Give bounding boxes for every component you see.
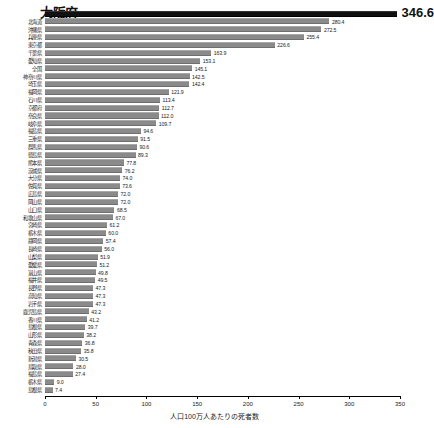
bar[interactable] [45,120,156,126]
bar-row[interactable]: 愛媛県51.2 [0,261,429,269]
bar-row[interactable]: 全国145.1 [0,65,429,73]
bar[interactable] [45,214,113,220]
bar-row[interactable]: 宮崎県61.2 [0,222,429,230]
bar[interactable] [45,340,82,346]
bar[interactable] [45,50,211,56]
bar-row[interactable]: 鳥取県28.0 [0,363,429,371]
bar-row[interactable]: 栃木県60.0 [0,229,429,237]
bar[interactable] [45,308,89,314]
bar-row[interactable]: 岩手県47.3 [0,300,429,308]
bar[interactable] [45,387,53,393]
bar-row[interactable]: 島根県7.4 [0,386,429,394]
bar-row[interactable]: 山形県38.2 [0,331,429,339]
bar[interactable] [45,199,118,205]
bar[interactable] [45,128,141,134]
bar-row[interactable]: 奈良県112.0 [0,112,429,120]
bar[interactable] [45,293,93,299]
bar[interactable] [45,11,397,17]
bar[interactable] [45,348,81,354]
bar-row[interactable]: 石川県113.4 [0,96,429,104]
bar-row[interactable]: 香川県41.2 [0,316,429,324]
bar-row[interactable]: 三重県91.5 [0,135,429,143]
bar[interactable] [45,81,189,87]
bar-row[interactable]: 静岡県57.4 [0,237,429,245]
bar[interactable] [45,97,160,103]
bar-row[interactable]: 神奈川県142.5 [0,73,429,81]
bar-row[interactable]: 岡山県72.0 [0,198,429,206]
bar[interactable] [45,332,84,338]
bar-row[interactable]: 京都府112.7 [0,104,429,112]
bar-row[interactable]: 埼玉県142.4 [0,81,429,89]
bar-row[interactable]: 秋田県35.8 [0,347,429,355]
bar[interactable] [45,371,73,377]
bar-row[interactable]: 愛知県153.1 [0,57,429,65]
bar-row[interactable]: 千葉県163.9 [0,49,429,57]
bar[interactable] [45,207,114,213]
bar-row[interactable]: 富山県49.8 [0,269,429,277]
bar-row[interactable]: 茨城県76.2 [0,167,429,175]
bar[interactable] [45,254,98,260]
bar[interactable] [45,316,87,322]
bar-row[interactable]: 鹿児島県43.2 [0,308,429,316]
bar[interactable] [45,246,102,252]
bar[interactable] [45,65,192,71]
bar[interactable] [45,105,159,111]
bar-row[interactable]: 徳島県89.3 [0,151,429,159]
bar-row[interactable]: 高知県47.3 [0,292,429,300]
bar-row[interactable]: 青森県36.8 [0,339,429,347]
bar-row[interactable]: 長崎県56.0 [0,245,429,253]
bar-row[interactable]: 福島県94.6 [0,128,429,136]
bar-row[interactable]: 島根県39.7 [0,323,429,331]
bar[interactable] [45,363,73,369]
bar-row[interactable]: 栃木県9.0 [0,378,429,386]
bar[interactable] [45,89,169,95]
bar-row[interactable]: 広島県72.0 [0,190,429,198]
bar[interactable] [45,167,122,173]
bar[interactable] [45,175,120,181]
bar[interactable] [45,58,200,64]
bar-row[interactable]: 岐阜県109.7 [0,120,429,128]
bar[interactable] [45,355,76,361]
bar-row[interactable]: 大分県74.0 [0,175,429,183]
bar-row[interactable]: 北海道280.4 [0,18,429,26]
bar-row[interactable]: 山口県68.5 [0,206,429,214]
bar-row[interactable]: 兵庫県255.4 [0,34,429,42]
bar[interactable] [45,301,93,307]
bar[interactable] [45,136,138,142]
bar[interactable] [45,269,96,275]
bar[interactable] [45,152,136,158]
bar-row[interactable]: 群馬県90.6 [0,143,429,151]
bar-row[interactable]: 大阪府346.6 [0,10,429,18]
bar[interactable] [45,285,93,291]
bar-row[interactable]: 和歌山県67.0 [0,214,429,222]
bar[interactable] [45,230,106,236]
bar[interactable] [45,42,275,48]
bar[interactable] [45,144,137,150]
bar-row[interactable]: 福島県27.4 [0,370,429,378]
bar-row[interactable]: 長野県47.3 [0,284,429,292]
bar[interactable] [45,34,304,40]
bar[interactable] [45,73,190,79]
bar[interactable] [45,238,103,244]
x-tick-mark [299,396,300,399]
bar-category-label: 神奈川県 [0,74,42,80]
bar[interactable] [45,183,120,189]
bar[interactable] [45,112,159,118]
bar[interactable] [45,159,124,165]
bar-row[interactable]: 山梨県51.9 [0,253,429,261]
bar-row[interactable]: 東京都226.6 [0,41,429,49]
bar[interactable] [45,277,95,283]
bar[interactable] [45,222,107,228]
bar-row[interactable]: 佐賀県73.6 [0,182,429,190]
bar-row[interactable]: 沖縄県272.5 [0,26,429,34]
bar[interactable] [45,324,85,330]
bar[interactable] [45,261,97,267]
bar-row[interactable]: 熊本県77.8 [0,159,429,167]
bar[interactable] [45,18,329,24]
bar[interactable] [45,26,321,32]
bar-row[interactable]: 福岡県121.9 [0,88,429,96]
bar[interactable] [45,191,118,197]
bar-row[interactable]: 福井県49.5 [0,276,429,284]
bar-row[interactable]: 新潟県30.5 [0,355,429,363]
bar[interactable] [45,379,54,385]
